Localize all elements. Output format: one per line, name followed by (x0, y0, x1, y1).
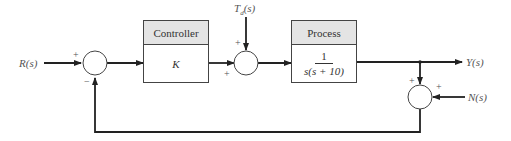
controller-block-header: Controller (144, 21, 208, 45)
diagram-lines (0, 0, 511, 141)
sign-minus-error-feedback: − (84, 77, 90, 87)
process-block-header: Process (292, 21, 356, 45)
summing-junction-error (83, 51, 107, 75)
input-signal-label: R(s) (19, 58, 37, 69)
sign-plus-error-input: + (73, 50, 79, 60)
summing-junction-disturbance (234, 51, 258, 75)
process-denominator: s(s + 10) (304, 64, 344, 78)
noise-signal-label: N(s) (468, 92, 487, 103)
sign-plus-noise: + (436, 82, 442, 92)
disturbance-signal-label: Td(s) (234, 3, 255, 17)
sign-plus-output-feedback: + (409, 76, 415, 86)
process-block: Process 1 s(s + 10) (291, 20, 357, 83)
output-signal-label: Y(s) (466, 57, 484, 68)
sign-plus-controller-output: + (224, 69, 230, 79)
summing-junction-noise (408, 85, 432, 109)
process-transfer-function: 1 s(s + 10) (292, 45, 356, 83)
process-numerator: 1 (315, 50, 333, 64)
sign-plus-disturbance: + (235, 38, 241, 48)
controller-block: Controller K (143, 20, 209, 83)
controller-transfer-function: K (144, 45, 208, 83)
